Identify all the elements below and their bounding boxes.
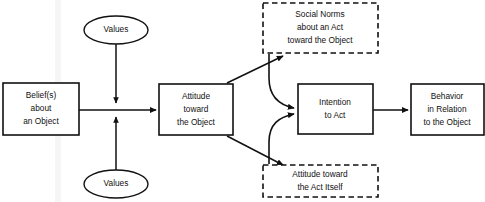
values-bottom-label: Values [104,178,129,188]
beliefs-line-1: Belief(s) [26,90,57,100]
edge-attitude-to-attitude-act [227,136,283,165]
social-norms-line-1: Social Norms [295,9,344,19]
values-top-label: Values [104,24,129,34]
flow-diagram: Belief(s) about an Object Values Values … [0,0,485,202]
attitude-object-line-1: Attitude [182,91,211,101]
behavior-line-3: to the Object [423,117,471,127]
node-values-bottom[interactable]: Values [84,170,148,198]
node-intention-to-act[interactable]: Intention to Act [298,84,373,134]
intention-line-2: to Act [325,110,346,120]
edge-attitude-act-to-intention [269,114,294,164]
node-attitude-toward-the-object[interactable]: Attitude toward the Object [159,84,233,135]
behavior-line-2: in Relation [427,104,467,114]
node-behavior-in-relation-to-the-object[interactable]: Behavior in Relation to the Object [411,84,484,135]
social-norms-line-3: toward the Object [287,35,353,45]
node-attitude-toward-the-act-itself[interactable]: Attitude toward the Act Itself [263,165,378,197]
beliefs-line-3: an Object [23,116,59,126]
attitude-object-line-3: the Object [177,117,216,127]
node-social-norms[interactable]: Social Norms about an Act toward the Obj… [263,3,378,53]
diagram-canvas-container: Belief(s) about an Object Values Values … [0,0,485,202]
intention-box[interactable] [298,84,373,134]
node-beliefs-about-an-object[interactable]: Belief(s) about an Object [3,83,79,135]
edge-social-norms-to-intention [269,54,294,108]
intention-line-1: Intention [319,97,351,107]
social-norms-line-2: about an Act [297,22,344,32]
behavior-line-1: Behavior [431,91,464,101]
attitude-act-line-1: Attitude toward [292,169,348,179]
node-values-top[interactable]: Values [84,16,148,44]
edge-attitude-to-social-norms [227,56,283,83]
beliefs-line-2: about [31,103,52,113]
attitude-act-line-2: the Act Itself [297,182,343,192]
attitude-object-line-2: toward [184,104,209,114]
